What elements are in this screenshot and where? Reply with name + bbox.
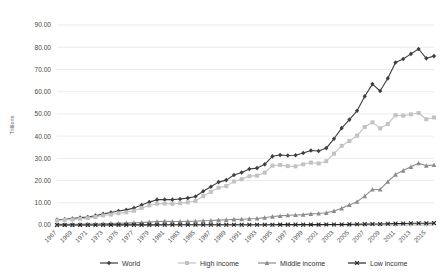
data-point-marker — [394, 113, 398, 117]
data-point-marker — [155, 202, 159, 206]
data-point-marker — [293, 153, 297, 158]
data-point-marker — [393, 60, 397, 65]
data-series-layer — [55, 47, 437, 227]
data-point-marker — [317, 161, 321, 165]
data-point-marker — [270, 164, 274, 168]
x-tick-label: 1975 — [104, 228, 119, 243]
data-point-marker — [170, 197, 174, 202]
data-point-marker — [101, 213, 105, 217]
data-point-marker — [55, 218, 59, 222]
x-tick-label: 2009 — [366, 228, 381, 243]
legend-item-world[interactable]: World — [100, 260, 140, 267]
y-tick-label: 40.00 — [34, 133, 51, 140]
series-line — [57, 113, 434, 220]
data-point-marker — [432, 115, 436, 119]
legend-item-middle-income[interactable]: Middle income — [258, 260, 325, 267]
data-point-marker — [278, 163, 282, 167]
data-point-marker — [209, 190, 213, 194]
x-tick-label: 2007 — [351, 228, 366, 243]
y-tick-label: 20.00 — [34, 177, 51, 184]
data-point-marker — [370, 120, 374, 124]
gridlines — [57, 25, 434, 203]
data-point-marker — [140, 206, 144, 210]
y-tick-label: 10.00 — [34, 199, 51, 206]
x-tick-label: 1989 — [212, 228, 227, 243]
data-point-marker — [432, 54, 436, 59]
y-tick-label: 60.00 — [34, 88, 51, 95]
legend-item-high-income[interactable]: High income — [178, 260, 239, 268]
data-point-marker — [363, 125, 367, 129]
data-point-marker — [247, 174, 251, 178]
x-tick-label: 1985 — [181, 228, 196, 243]
x-tick-label: 1995 — [258, 228, 273, 243]
series-low-income — [55, 221, 436, 227]
x-axis-tick-labels: 1967196919711973197519771979198119831985… — [43, 225, 428, 244]
x-tick-label: 1973 — [89, 228, 104, 243]
plot-area: 0.0010.0020.0030.0040.0050.0060.0070.008… — [0, 0, 441, 279]
data-point-marker — [278, 153, 282, 158]
data-point-marker — [93, 215, 97, 219]
data-point-marker — [186, 196, 190, 201]
x-tick-label: 1983 — [166, 228, 181, 243]
data-point-marker — [309, 148, 313, 153]
data-point-marker — [185, 261, 189, 265]
chart-legend: WorldHigh incomeMiddle incomeLow income — [100, 260, 407, 268]
data-point-marker — [393, 172, 398, 177]
data-point-marker — [232, 179, 236, 183]
data-point-marker — [347, 139, 351, 143]
data-point-marker — [255, 166, 259, 171]
x-tick-label: 1969 — [58, 228, 73, 243]
legend-label: Middle income — [280, 260, 325, 267]
data-point-marker — [301, 162, 305, 166]
x-tick-label: 1977 — [120, 228, 135, 243]
y-tick-label: 30.00 — [34, 155, 51, 162]
y-tick-label: 80.00 — [34, 44, 51, 51]
legend-label: Low income — [370, 260, 407, 267]
data-point-marker — [416, 161, 421, 166]
data-point-marker — [301, 151, 305, 156]
y-tick-label: 50.00 — [34, 110, 51, 117]
data-point-marker — [417, 111, 421, 115]
legend-item-low-income[interactable]: Low income — [348, 260, 407, 267]
y-tick-label: 90.00 — [34, 21, 51, 28]
x-tick-label: 1991 — [227, 228, 242, 243]
series-high-income — [55, 111, 436, 222]
data-point-marker — [117, 211, 121, 215]
data-point-marker — [263, 171, 267, 175]
data-point-marker — [332, 152, 336, 156]
y-tick-label: 0.00 — [38, 221, 51, 228]
data-point-marker — [63, 218, 67, 222]
data-point-marker — [107, 261, 111, 266]
x-tick-label: 2011 — [382, 228, 397, 243]
data-point-marker — [378, 126, 382, 130]
series-line — [57, 49, 434, 220]
data-point-marker — [163, 202, 167, 206]
x-tick-label: 2005 — [335, 228, 350, 243]
data-point-marker — [340, 144, 344, 148]
data-point-marker — [178, 201, 182, 205]
data-point-marker — [124, 210, 128, 214]
data-point-marker — [240, 177, 244, 181]
data-point-marker — [132, 209, 136, 213]
chart-svg: 0.0010.0020.0030.0040.0050.0060.0070.008… — [0, 0, 441, 279]
data-point-marker — [209, 184, 213, 189]
data-point-marker — [386, 122, 390, 126]
data-point-marker — [240, 170, 244, 175]
data-point-marker — [247, 167, 251, 172]
data-point-marker — [163, 197, 167, 202]
data-point-marker — [70, 217, 74, 221]
data-point-marker — [316, 149, 320, 154]
data-point-marker — [424, 117, 428, 121]
legend-label: High income — [200, 260, 239, 268]
data-point-marker — [401, 114, 405, 118]
legend-label: World — [122, 260, 140, 267]
x-tick-label: 1999 — [289, 228, 304, 243]
y-tick-label: 70.00 — [34, 66, 51, 73]
data-point-marker — [155, 197, 159, 202]
x-tick-label: 1987 — [197, 228, 212, 243]
data-point-marker — [286, 164, 290, 168]
data-point-marker — [409, 112, 413, 116]
x-tick-label: 1979 — [135, 228, 150, 243]
data-point-marker — [324, 159, 328, 163]
y-axis-title: Trillions — [9, 115, 15, 134]
